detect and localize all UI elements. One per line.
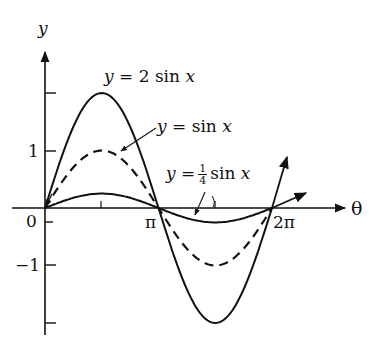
tick-label-0: 0 — [26, 213, 37, 230]
y-axis-label: y — [38, 20, 48, 37]
leader-quarter — [195, 192, 205, 215]
label-2sin: y = 2 sin x — [104, 68, 195, 85]
tangent-arrow-shallow — [272, 193, 306, 208]
angle-mark — [212, 196, 214, 207]
tick-label-1: 1 — [28, 143, 39, 160]
tick-label-neg1: −1 — [15, 257, 40, 274]
tangent-arrow-steep — [272, 157, 287, 208]
tick-label-2pi: 2π — [273, 214, 295, 231]
sine-amplitude-chart: y θ 0 π 2π 1 −1 y = 2 sin x y = sin x y … — [0, 0, 384, 351]
label-quarter-sin: y =14sin x — [166, 163, 250, 186]
tick-label-pi: π — [145, 214, 156, 231]
x-axis-label: θ — [351, 199, 362, 218]
label-sin: y = sin x — [157, 118, 232, 135]
